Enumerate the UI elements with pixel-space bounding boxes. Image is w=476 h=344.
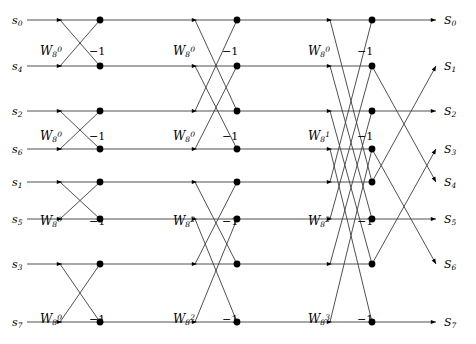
twiddle-label-stage2-pair0: W80	[173, 44, 195, 59]
twiddle-label-stage3-pair1: W81	[308, 129, 330, 144]
twiddle-label-stage3-pair2: W82	[308, 214, 330, 229]
stage3-feed-arrow-row4	[327, 180, 332, 184]
input-label-1: s1	[12, 176, 22, 190]
stage1-sum-node-0	[97, 17, 104, 24]
output-arrowhead-0	[431, 18, 436, 22]
stage3-feed-arrow-row1	[327, 64, 332, 68]
output-label-1: S1	[444, 60, 456, 74]
output-arrowhead-1	[432, 66, 436, 72]
stage2-sum-node-4	[234, 179, 241, 186]
output-arrowhead-4	[432, 176, 436, 182]
stage2-sum-node-3	[234, 146, 241, 153]
output-label-6: S6	[444, 258, 457, 272]
stage3-sum-node-1	[369, 63, 376, 70]
input-label-5: s5	[12, 213, 23, 227]
output-label-5: S5	[444, 213, 457, 227]
input-label-2: s2	[12, 105, 23, 119]
stage1-sum-node-6	[97, 261, 104, 268]
minus-one-label-stage3-pair1: −1	[357, 130, 373, 143]
minus-one-label-stage3-pair0: −1	[357, 45, 373, 58]
stage3-feed-arrow-row2	[327, 109, 332, 113]
output-arrowhead-2	[431, 109, 436, 113]
nodes-layer	[97, 17, 376, 326]
stage3-sum-node-2	[369, 108, 376, 115]
output-arrowhead-7	[431, 320, 436, 324]
minus-one-label-stage2-pair3: −1	[222, 313, 238, 326]
twiddle-label-stage1-pair2: W80	[40, 214, 62, 229]
minus-one-label-stage2-pair0: −1	[222, 45, 238, 58]
stage1-sum-node-4	[97, 179, 104, 186]
stage3-sum-node-3	[369, 146, 376, 153]
twiddle-label-stage3-pair3: W83	[308, 312, 330, 327]
minus-one-label-stage2-pair1: −1	[222, 130, 238, 143]
arrowheads-layer	[57, 18, 436, 324]
stage3-sum-node-0	[369, 17, 376, 24]
stage2-sum-node-0	[234, 17, 241, 24]
minus-one-label-stage1-pair1: −1	[89, 130, 105, 143]
minus-one-label-stage1-pair2: −1	[89, 215, 105, 228]
output-label-3: S3	[444, 143, 457, 157]
minus-one-label-stage3-pair3: −1	[357, 313, 373, 326]
twiddle-label-stage2-pair2: W82	[173, 214, 195, 229]
stage3-feed-arrow-row3	[327, 147, 332, 151]
minus-one-label-stage1-pair3: −1	[89, 313, 105, 326]
input-label-4: s4	[12, 60, 23, 74]
stage2-feed-arrow-row2	[192, 109, 197, 113]
output-arrowhead-5	[431, 217, 436, 221]
stage3-sum-node-6	[369, 261, 376, 268]
twiddle-label-stage2-pair3: W82	[173, 312, 195, 327]
stage1-sum-node-3	[97, 146, 104, 153]
fft-diagram-root: s0s4s2s6s1s5s3s7S0S1S2S3S4S5S6S7W80−1W80…	[0, 0, 476, 344]
stage3-feed-arrow-row0	[327, 18, 332, 22]
twiddle-label-stage1-pair1: W80	[40, 129, 62, 144]
output-label-2: S2	[444, 105, 457, 119]
twiddle-label-stage1-pair3: W80	[40, 312, 62, 327]
twiddle-label-stage1-pair0: W80	[40, 44, 62, 59]
labels-layer: s0s4s2s6s1s5s3s7S0S1S2S3S4S5S6S7W80−1W80…	[12, 14, 457, 330]
stage3-feed-arrow-row6	[327, 262, 332, 266]
stage2-feed-arrow-row0	[192, 18, 197, 22]
stage1-sum-node-1	[97, 63, 104, 70]
stage3-sum-node-4	[369, 179, 376, 186]
input-label-7: s7	[12, 316, 23, 330]
input-label-3: s3	[12, 258, 23, 272]
output-label-4: S4	[444, 176, 457, 190]
stage2-sum-node-6	[234, 261, 241, 268]
output-arrowhead-3	[432, 149, 436, 155]
minus-one-label-stage3-pair2: −1	[357, 215, 373, 228]
fft-signal-flow-graph: s0s4s2s6s1s5s3s7S0S1S2S3S4S5S6S7W80−1W80…	[0, 0, 476, 344]
stage2-sum-node-1	[234, 63, 241, 70]
output-label-7: S7	[444, 316, 457, 330]
output-label-0: S0	[444, 14, 457, 28]
stage2-sum-node-2	[234, 108, 241, 115]
input-label-0: s0	[12, 14, 23, 28]
minus-one-label-stage2-pair2: −1	[222, 215, 238, 228]
output-arrowhead-6	[432, 258, 436, 264]
stage1-sum-node-2	[97, 108, 104, 115]
twiddle-label-stage2-pair1: W80	[173, 129, 195, 144]
twiddle-label-stage3-pair0: W80	[308, 44, 330, 59]
minus-one-label-stage1-pair0: −1	[89, 45, 105, 58]
input-label-6: s6	[12, 143, 23, 157]
